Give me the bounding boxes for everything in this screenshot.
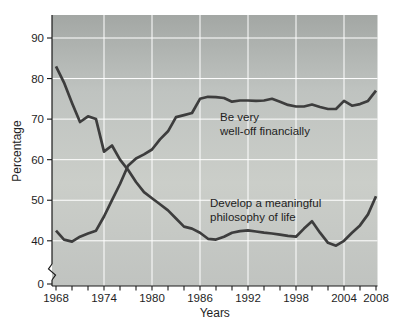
- y-tick-label-zero: 0: [38, 278, 44, 290]
- line-chart-figure: 4050607080900196819741980198619921998200…: [0, 0, 400, 329]
- plot-area: [52, 15, 378, 286]
- x-tick-label: 1986: [187, 292, 213, 304]
- y-tick-label: 90: [31, 32, 44, 44]
- series-label-financial: Be very: [220, 111, 259, 123]
- y-tick-label: 50: [31, 194, 44, 206]
- x-tick-label: 2004: [331, 292, 357, 304]
- x-axis-title: Years: [200, 306, 230, 320]
- x-tick-label: 1992: [235, 292, 261, 304]
- y-tick-label: 60: [31, 154, 44, 166]
- x-tick-label: 1974: [91, 292, 117, 304]
- x-tick-label: 1980: [139, 292, 165, 304]
- x-tick-label: 2008: [363, 292, 389, 304]
- series-label-philosophy: philosophy of life: [210, 211, 296, 223]
- y-axis-title: Percentage: [10, 120, 24, 182]
- line-chart: 4050607080900196819741980198619921998200…: [0, 0, 400, 329]
- y-tick-label: 70: [31, 113, 44, 125]
- y-tick-label: 80: [31, 73, 44, 85]
- x-tick-label: 1968: [43, 292, 69, 304]
- x-tick-label: 1998: [283, 292, 309, 304]
- series-label-philosophy: Develop a meaningful: [210, 197, 321, 209]
- y-tick-label: 40: [31, 235, 44, 247]
- series-label-financial: well-off financially: [219, 125, 310, 137]
